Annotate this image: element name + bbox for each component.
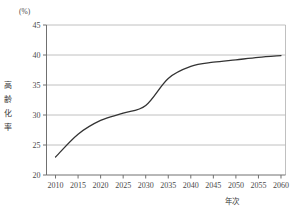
- y-axis-title-char-1: 齢: [4, 94, 12, 104]
- x-tick-labels-group: 2010201520202025203020352040204520502055…: [48, 181, 289, 190]
- y-axis-title-char-0: 高: [4, 80, 12, 90]
- x-tick-label-2040: 2040: [183, 181, 199, 190]
- x-tick-label-2015: 2015: [70, 181, 86, 190]
- x-tick-label-2045: 2045: [205, 181, 221, 190]
- y-axis-title-char-3: 率: [4, 122, 12, 132]
- x-tick-label-2060: 2060: [273, 181, 289, 190]
- x-tick-label-2020: 2020: [93, 181, 109, 190]
- y-tick-label-25: 25: [33, 141, 41, 150]
- x-tick-label-2030: 2030: [138, 181, 154, 190]
- x-tick-label-2050: 2050: [228, 181, 244, 190]
- y-tick-label-20: 20: [33, 171, 41, 180]
- y-axis-title-char-2: 化: [4, 108, 12, 118]
- x-tick-label-2010: 2010: [48, 181, 64, 190]
- chart-canvas: 2010201520202025203020352040204520502055…: [0, 0, 298, 209]
- x-tick-label-2035: 2035: [160, 181, 176, 190]
- x-axis-title: 年次: [225, 196, 240, 206]
- y-tick-label-40: 40: [33, 51, 41, 60]
- y-unit-label: (%): [19, 7, 31, 16]
- x-tick-label-2055: 2055: [250, 181, 266, 190]
- aging-rate-line-chart: 2010201520202025203020352040204520502055…: [0, 0, 298, 209]
- y-tick-label-35: 35: [33, 81, 41, 90]
- y-tick-label-45: 45: [33, 21, 41, 30]
- y-tick-label-30: 30: [33, 111, 41, 120]
- chart-background: [0, 0, 298, 209]
- x-tick-label-2025: 2025: [115, 181, 131, 190]
